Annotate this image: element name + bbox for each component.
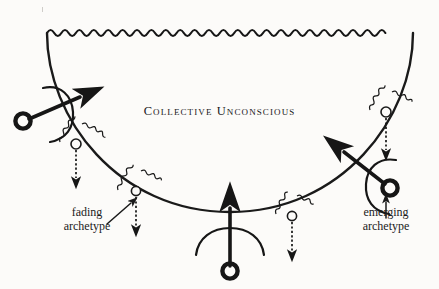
label-fading-archetype-line1: fading [48,206,126,220]
ring-icon [382,180,397,195]
diagram-canvas [0,0,439,289]
bowl-curve-icon [47,33,413,212]
label-fading-archetype-line2: archetype [48,220,126,234]
wavy-boundary-icon [47,30,385,36]
page-title: Collective Unconscious [0,104,439,118]
label-fading-archetype: fading archetype [48,206,126,234]
ring-arrow-bottom [196,208,264,279]
archetype-node-circle [71,139,81,149]
figure-collective-unconscious: Collective Unconscious fading archetype … [0,0,439,289]
label-emerging-archetype: emerging archetype [344,206,428,234]
archetype-node-1 [60,116,106,178]
label-emerging-archetype-line1: emerging [344,206,428,220]
label-emerging-archetype-line2: archetype [344,220,428,234]
archetype-node-circle [131,186,140,195]
archetype-node-circle [287,211,296,220]
